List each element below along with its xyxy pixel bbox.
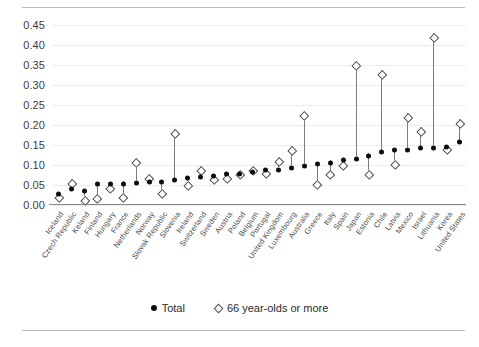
gridline	[52, 165, 466, 166]
filled-circle-marker	[315, 162, 320, 167]
open-diamond-marker	[365, 169, 374, 178]
filled-circle-marker	[224, 172, 229, 177]
y-tick-label: 0.45	[23, 19, 45, 31]
filled-circle-marker	[379, 150, 384, 155]
filled-circle-marker	[366, 153, 371, 158]
y-tick-label: 0.30	[23, 79, 45, 91]
figure-top-rule	[22, 7, 465, 8]
chart-legend: Total 66 year-olds or more	[0, 302, 479, 314]
connector-stem	[356, 61, 357, 156]
filled-circle-marker	[185, 176, 190, 181]
gridline	[52, 45, 466, 46]
filled-circle-marker	[302, 163, 307, 168]
filled-circle-marker	[159, 180, 164, 185]
filled-circle-marker	[289, 165, 294, 170]
filled-circle-marker	[418, 146, 423, 151]
open-diamond-marker	[158, 189, 167, 198]
gridline	[52, 65, 466, 66]
open-diamond-marker	[391, 160, 400, 169]
open-diamond-marker	[352, 61, 361, 70]
open-diamond-icon	[213, 303, 223, 313]
open-diamond-marker	[378, 69, 387, 78]
connector-stem	[433, 33, 434, 145]
filled-circle-marker	[198, 174, 203, 179]
filled-circle-marker	[354, 156, 359, 161]
filled-circle-marker	[431, 145, 436, 150]
y-tick-label: 0.00	[23, 199, 45, 211]
x-axis-line	[49, 204, 466, 205]
filled-circle-marker	[95, 182, 100, 187]
legend-label: 66 year-olds or more	[227, 302, 329, 314]
y-tick-label: 0.05	[23, 179, 45, 191]
open-diamond-marker	[171, 129, 180, 138]
open-diamond-marker	[417, 127, 426, 136]
y-tick-label: 0.20	[23, 119, 45, 131]
open-diamond-marker	[287, 145, 296, 154]
filled-circle-marker	[69, 186, 74, 191]
open-diamond-marker	[455, 119, 464, 128]
y-tick-label: 0.40	[23, 39, 45, 51]
open-diamond-marker	[93, 193, 102, 202]
legend-label: Total	[162, 302, 185, 314]
chart-figure: 0.450.400.350.300.250.200.150.100.050.00…	[0, 0, 479, 347]
open-diamond-marker	[313, 179, 322, 188]
gridline	[52, 85, 466, 86]
filled-circle-marker	[121, 181, 126, 186]
filled-circle-marker	[392, 148, 397, 153]
y-tick-label: 0.15	[23, 139, 45, 151]
open-diamond-marker	[184, 181, 193, 190]
gridline	[52, 125, 466, 126]
gridline	[52, 145, 466, 146]
open-diamond-marker	[429, 33, 438, 42]
open-diamond-marker	[300, 111, 309, 120]
figure-bottom-rule	[22, 330, 465, 331]
filled-circle-marker	[405, 147, 410, 152]
filled-circle-marker	[457, 140, 462, 145]
y-tick-label: 0.10	[23, 159, 45, 171]
gridline	[52, 25, 466, 26]
filled-circle-marker	[276, 167, 281, 172]
filled-circle-marker	[82, 189, 87, 194]
filled-circle-icon	[151, 305, 157, 311]
filled-circle-marker	[134, 180, 139, 185]
filled-circle-marker	[147, 180, 152, 185]
gridline	[52, 105, 466, 106]
connector-stem	[381, 70, 382, 150]
plot-area: 0.450.400.350.300.250.200.150.100.050.00…	[52, 25, 466, 205]
filled-circle-marker	[237, 171, 242, 176]
gridline	[52, 205, 466, 206]
filled-circle-marker	[341, 158, 346, 163]
open-diamond-marker	[404, 113, 413, 122]
filled-circle-marker	[328, 160, 333, 165]
filled-circle-marker	[250, 169, 255, 174]
open-diamond-marker	[326, 169, 335, 178]
gridline	[52, 185, 466, 186]
filled-circle-marker	[263, 168, 268, 173]
legend-item-66-year-olds-or-more: 66 year-olds or more	[215, 302, 329, 314]
filled-circle-marker	[444, 144, 449, 149]
filled-circle-marker	[56, 191, 61, 196]
legend-item-total: Total	[151, 302, 185, 314]
y-tick-label: 0.35	[23, 59, 45, 71]
filled-circle-marker	[211, 173, 216, 178]
filled-circle-marker	[108, 181, 113, 186]
filled-circle-marker	[172, 178, 177, 183]
y-tick-label: 0.25	[23, 99, 45, 111]
open-diamond-marker	[119, 193, 128, 202]
